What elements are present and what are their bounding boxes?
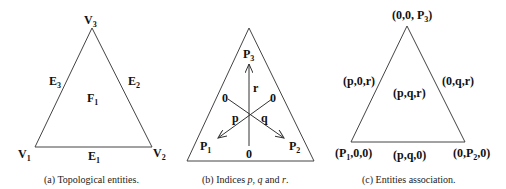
panel-a-topological-entities: V3 V1 V2 E1 E2 E3 F1 (a) Topological ent… <box>18 13 166 186</box>
axis-label-r: r <box>253 81 259 95</box>
edge-e1: E1 <box>88 149 100 165</box>
panel-c-entities-association: (0,0, P3) (P1,0,0) (0,P2,0) (p,q,0) (p,0… <box>335 8 490 186</box>
vertex-v3: V3 <box>84 13 97 29</box>
caption-c: (c) Entities association. <box>362 174 456 186</box>
panel-b-indices: P3 P1 P2 r p q 0 0 0 (b) Indices p, q an… <box>187 28 314 186</box>
corner-p2: P2 <box>289 139 300 155</box>
corner-p3: P3 <box>243 47 254 63</box>
face-f1: F1 <box>87 91 98 107</box>
caption-a: (a) Topological entities. <box>44 174 139 186</box>
vertex-v1: V1 <box>18 147 31 163</box>
caption-b: (b) Indices p, q and r. <box>202 174 288 186</box>
vertex-label-v2: (0,P2,0) <box>453 146 490 162</box>
vertex-label-v3: (0,0, P3) <box>392 8 432 24</box>
axis-label-q: q <box>261 111 268 125</box>
edge-label-left: (p,0,r) <box>343 74 375 88</box>
corner-p1: P1 <box>200 139 211 155</box>
edge-e2: E2 <box>128 74 140 90</box>
edge-e3: E3 <box>49 74 61 90</box>
figure: V3 V1 V2 E1 E2 E3 F1 (a) Topological ent… <box>0 0 506 189</box>
face-label: (p,q,r) <box>393 86 426 100</box>
vertex-v2: V2 <box>153 146 166 162</box>
zero-upper-right: 0 <box>270 91 276 105</box>
zero-bottom: 0 <box>246 147 252 161</box>
vertex-label-v1: (P1,0,0) <box>335 146 372 162</box>
axis-label-p: p <box>232 111 239 125</box>
zero-upper-left: 0 <box>222 91 228 105</box>
edge-label-bottom: (p,q,0) <box>393 148 426 162</box>
edge-label-right: (0,q,r) <box>442 74 474 88</box>
